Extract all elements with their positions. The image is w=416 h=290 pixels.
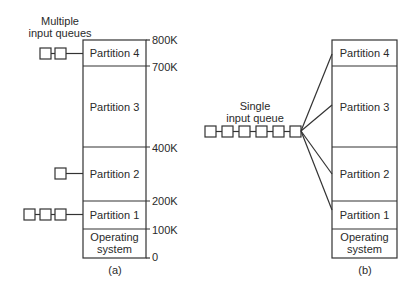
partition-4-label-a: Partition 4 — [83, 47, 146, 59]
caption-a: (a) — [95, 264, 135, 276]
queue-label-a-line1: Multiple — [20, 15, 100, 27]
queue-partition-4 — [40, 48, 83, 59]
partition-3-label-b: Partition 3 — [332, 101, 397, 113]
address-800k: 800K — [152, 34, 178, 46]
partition-1-label-a: Partition 1 — [83, 209, 146, 221]
partition-2-label-a: Partition 2 — [83, 168, 146, 180]
single-input-queue — [205, 126, 301, 137]
memory-box-a — [83, 40, 146, 258]
address-100k: 100K — [152, 224, 178, 236]
caption-b: (b) — [345, 264, 385, 276]
partition-4-label-b: Partition 4 — [332, 47, 397, 59]
address-700k: 700K — [152, 61, 178, 73]
partition-1-label-b: Partition 1 — [332, 209, 397, 221]
os-label-b-line2: system — [332, 243, 397, 255]
queue-label-b-line2: input queue — [215, 112, 295, 124]
address-400k: 400K — [152, 142, 178, 154]
queue-label-a-line2: input queues — [18, 27, 102, 39]
queue-partition-2 — [55, 168, 83, 179]
os-label-a-line1: Operating — [83, 231, 146, 243]
fanout-lines — [301, 54, 332, 210]
os-label-b-line1: Operating — [332, 231, 397, 243]
queue-partition-1 — [24, 209, 83, 220]
partition-3-label-a: Partition 3 — [83, 101, 146, 113]
address-200k: 200K — [152, 195, 178, 207]
memory-box-b — [332, 40, 397, 258]
os-label-a-line2: system — [83, 243, 146, 255]
partition-2-label-b: Partition 2 — [332, 168, 397, 180]
queue-label-b-line1: Single — [220, 100, 290, 112]
address-0: 0 — [152, 251, 158, 263]
